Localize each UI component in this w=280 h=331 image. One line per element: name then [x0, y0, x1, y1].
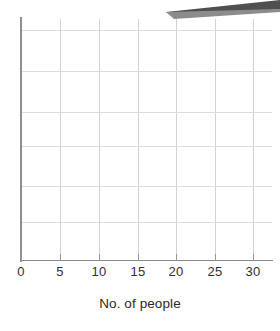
- x-axis-tick: [99, 254, 100, 261]
- x-axis-tick-label: 25: [195, 264, 235, 279]
- x-axis-tick-label: 10: [79, 264, 119, 279]
- x-axis-tick: [21, 254, 22, 261]
- gridline-horizontal: [21, 30, 272, 31]
- x-axis-tick-label: 15: [118, 264, 158, 279]
- gridline-vertical: [253, 19, 254, 261]
- x-axis-title: No. of people: [0, 296, 280, 311]
- gridline-horizontal: [21, 112, 272, 113]
- x-axis-line: [20, 260, 273, 261]
- gridline-horizontal: [21, 222, 272, 223]
- gridline-horizontal: [21, 146, 272, 147]
- x-axis-tick: [60, 254, 61, 261]
- x-axis-tick-label: 20: [156, 264, 196, 279]
- x-axis-tick-label: 0: [1, 264, 41, 279]
- gridline-vertical: [176, 19, 177, 261]
- x-axis-tick-label: 5: [40, 264, 80, 279]
- gridline-vertical: [60, 19, 61, 261]
- gridline-vertical: [99, 19, 100, 261]
- gridline-vertical: [215, 19, 216, 261]
- x-axis-tick-label: 30: [233, 264, 273, 279]
- x-axis-tick: [215, 254, 216, 261]
- x-axis-tick: [176, 254, 177, 261]
- gridline-horizontal: [21, 186, 272, 187]
- x-axis-tick: [138, 254, 139, 261]
- gridline-vertical: [138, 19, 139, 261]
- chart-screenshot: 0 5 10 15 20 25 30 No. of people: [0, 0, 280, 331]
- x-axis-tick: [253, 254, 254, 261]
- plot-grid-area: [21, 19, 272, 261]
- gridline-horizontal: [21, 71, 272, 72]
- y-axis-line: [20, 17, 22, 262]
